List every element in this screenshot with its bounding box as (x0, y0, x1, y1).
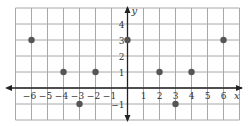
y-tick-label: −1 (111, 100, 124, 110)
x-tick-label: −3 (71, 91, 85, 101)
data-point (220, 37, 226, 43)
x-tick-label: 3 (173, 91, 179, 101)
data-point (92, 69, 98, 75)
coordinate-plane: −6−5−4−3−2−1123456 4321−1 x y (0, 0, 251, 126)
data-point (188, 69, 194, 75)
x-tick-label: −4 (55, 91, 69, 101)
x-axis-left-arrow-icon (5, 85, 12, 91)
y-tick-label: 4 (119, 20, 125, 30)
x-tick-label: 6 (221, 91, 227, 101)
x-tick-label: 2 (157, 91, 163, 101)
x-tick-label: −5 (39, 91, 53, 101)
data-point (156, 69, 162, 75)
x-tick-label: 4 (189, 91, 195, 101)
x-tick-label: −6 (23, 91, 37, 101)
x-tick-label: 5 (205, 91, 211, 101)
y-tick-label: 1 (119, 68, 125, 78)
data-point (76, 101, 82, 107)
x-tick-label: 1 (141, 91, 147, 101)
data-point (124, 37, 130, 43)
y-tick-label: 2 (119, 52, 125, 62)
y-axis-label: y (131, 5, 138, 16)
x-tick-labels: −6−5−4−3−2−1123456 (23, 91, 227, 101)
data-point (172, 101, 178, 107)
y-axis-up-arrow-icon (125, 6, 131, 13)
y-axis-down-arrow-icon (125, 115, 131, 122)
x-axis-label: x (234, 90, 240, 101)
data-point (28, 37, 34, 43)
y-tick-label: 3 (119, 36, 125, 46)
data-point (60, 69, 66, 75)
x-tick-label: −2 (87, 91, 100, 101)
